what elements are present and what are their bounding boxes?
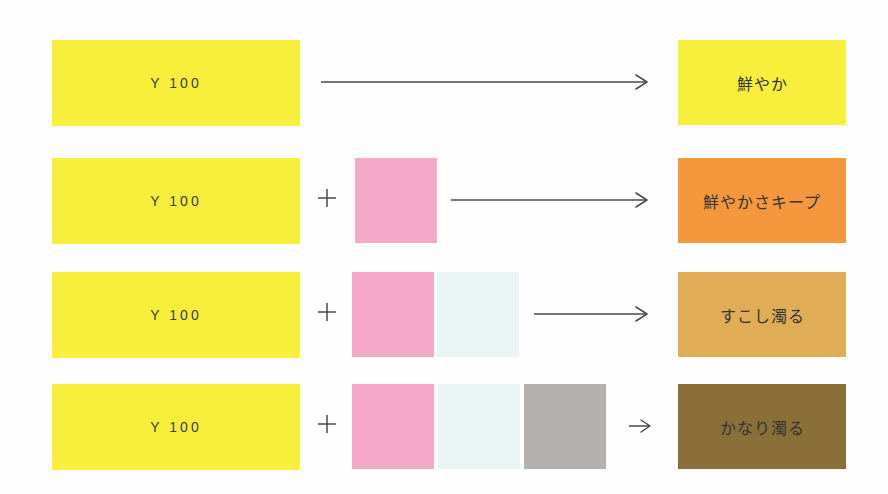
plus-icon: [316, 301, 338, 323]
add-swatch-magenta: [352, 384, 434, 469]
base-swatch-y100: Y 100: [52, 272, 300, 358]
base-swatch-y100: Y 100: [52, 384, 300, 470]
arrow-right-icon: [450, 191, 654, 209]
add-swatch-gray: [524, 384, 606, 469]
result-swatch-very-muddy: かなり濁る: [678, 384, 846, 469]
add-swatch-cyan: [438, 384, 520, 469]
add-swatch-magenta: [355, 158, 437, 243]
plus-icon: [316, 187, 338, 209]
base-swatch-label: Y 100: [150, 307, 201, 323]
result-swatch-vivid: 鮮やか: [678, 40, 846, 125]
result-swatch-label: 鮮やか: [737, 71, 788, 95]
base-swatch-y100: Y 100: [52, 40, 300, 126]
result-swatch-label: すこし濁る: [720, 303, 805, 327]
base-swatch-label: Y 100: [150, 419, 201, 435]
base-swatch-label: Y 100: [150, 193, 201, 209]
arrow-right-icon: [320, 73, 654, 91]
base-swatch-label: Y 100: [150, 75, 201, 91]
result-swatch-label: 鮮やかさキープ: [703, 189, 821, 213]
result-swatch-slightly-muddy: すこし濁る: [678, 272, 846, 357]
result-swatch-label: かなり濁る: [720, 415, 805, 439]
plus-icon: [316, 413, 338, 435]
add-swatch-magenta: [352, 272, 434, 357]
base-swatch-y100: Y 100: [52, 158, 300, 244]
add-swatch-cyan: [437, 272, 519, 357]
arrow-right-icon: [628, 417, 655, 435]
result-swatch-keep-vivid: 鮮やかさキープ: [678, 158, 846, 243]
arrow-right-icon: [533, 305, 654, 323]
color-mixing-diagram: Y 100 鮮やか Y 100 鮮やかさキープ Y 100: [0, 0, 888, 494]
